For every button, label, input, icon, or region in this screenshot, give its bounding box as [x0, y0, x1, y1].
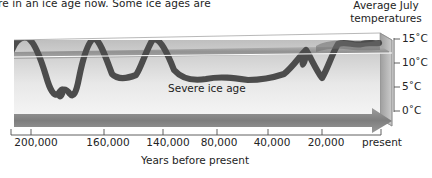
- x-tick-label-40000: 40,000: [254, 136, 291, 149]
- x-tick-label-present: present: [362, 136, 402, 149]
- x-tick-label-20000: 20,000: [308, 136, 345, 149]
- y-axis: [394, 38, 400, 112]
- y-tick-label-0: 0˚C: [402, 105, 421, 116]
- x-tick-label-160000: 160,000: [86, 136, 129, 149]
- y-tick-label-10: 10˚C: [402, 57, 428, 68]
- y-tick-label-5: 5˚C: [402, 81, 421, 92]
- x-axis-title: Years before present: [0, 154, 390, 166]
- block-side-face: [380, 33, 392, 126]
- x-tick-label-140000: 140,000: [146, 136, 189, 149]
- y-tick-label-15: 15˚C: [402, 33, 428, 44]
- x-tick-label-200000: 200,000: [14, 136, 57, 149]
- x-tick-labels: 200,000 160,000 140,000 80,000 40,000 20…: [0, 136, 432, 152]
- annotation-severe-ice-age: Severe ice age: [168, 82, 246, 94]
- x-axis: [11, 129, 381, 135]
- x-tick-label-80000: 80,000: [201, 136, 238, 149]
- ice-age-temperature-figure: re in an ice age now. Some ice ages are …: [0, 0, 432, 178]
